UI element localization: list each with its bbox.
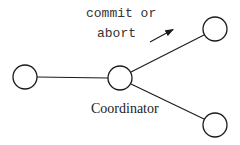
participant-node-top-right	[203, 17, 227, 41]
coordinator-node	[108, 66, 132, 90]
message-label-line2: abort	[97, 26, 136, 41]
message-arrow-icon	[150, 30, 173, 43]
participant-node-left	[13, 65, 37, 89]
edge-coordinator-to-top-right	[131, 35, 204, 72]
edge-left-to-coordinator	[37, 77, 108, 78]
coordinator-label: Coordinator	[91, 101, 159, 116]
participant-node-bottom-right	[203, 113, 227, 137]
two-phase-commit-diagram: commit or abort Coordinator	[0, 0, 240, 145]
message-label-line1: commit or	[86, 6, 156, 21]
